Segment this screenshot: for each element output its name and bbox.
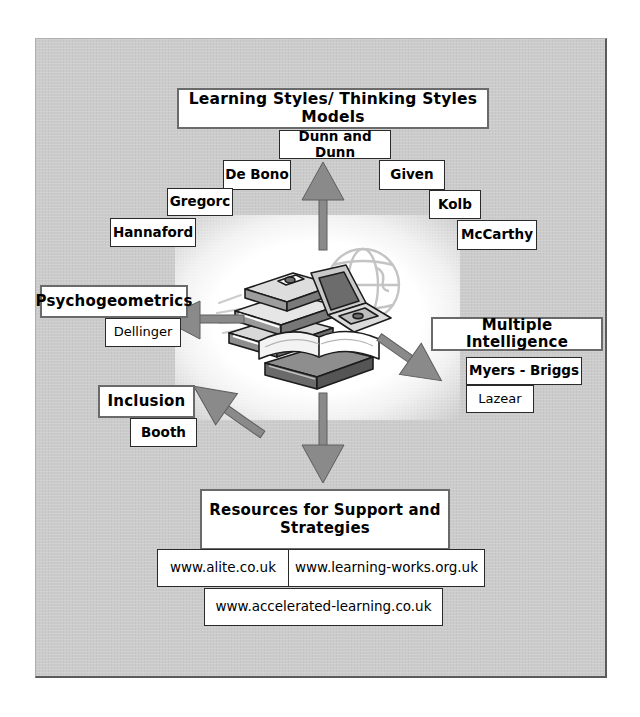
heading-inclusion[interactable]: Inclusion: [98, 385, 195, 418]
item-dunn-and-dunn[interactable]: Dunn and Dunn: [279, 130, 391, 159]
heading-psychogeometrics[interactable]: Psychogeometrics: [40, 285, 188, 318]
arrow-down-left-icon: [186, 372, 272, 450]
item-myers-briggs[interactable]: Myers - Briggs: [466, 357, 582, 385]
item-dellinger[interactable]: Dellinger: [105, 318, 181, 347]
diagram-canvas: Learning Styles/ Thinking Styles Models …: [0, 0, 640, 717]
heading-multiple-intelligence[interactable]: Multiple Intelligence: [431, 317, 603, 351]
item-de-bono[interactable]: De Bono: [223, 160, 291, 190]
heading-learning-styles[interactable]: Learning Styles/ Thinking Styles Models: [177, 88, 489, 129]
heading-resources-line1: Resources for Support and: [209, 502, 440, 519]
link-learning-works[interactable]: www.learning-works.org.uk: [288, 549, 485, 587]
arrow-down-icon: [300, 393, 346, 485]
item-lazear[interactable]: Lazear: [466, 385, 534, 413]
item-kolb[interactable]: Kolb: [429, 190, 481, 219]
item-booth[interactable]: Booth: [130, 418, 197, 447]
item-gregorc[interactable]: Gregorc: [167, 188, 233, 216]
arrow-up-icon: [300, 160, 346, 250]
heading-resources-line2: Strategies: [280, 520, 370, 537]
link-alite[interactable]: www.alite.co.uk: [157, 549, 289, 587]
heading-resources[interactable]: Resources for Support and Strategies: [200, 489, 450, 550]
item-hannaford[interactable]: Hannaford: [110, 218, 196, 247]
link-accelerated-learning[interactable]: www.accelerated-learning.co.uk: [204, 588, 443, 626]
item-mccarthy[interactable]: McCarthy: [457, 220, 537, 250]
item-given[interactable]: Given: [379, 160, 445, 190]
